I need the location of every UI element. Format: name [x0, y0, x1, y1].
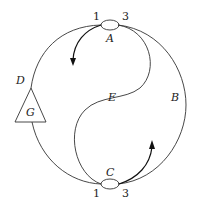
branch-e — [74, 25, 150, 184]
branch-d-upper — [31, 25, 101, 88]
arrow-head-up-icon — [149, 140, 155, 149]
node-c-port-3: 3 — [122, 187, 129, 200]
node-c — [101, 179, 119, 189]
element-g-label: G — [26, 106, 35, 119]
branch-d-lower — [32, 122, 101, 184]
branch-e-label: E — [107, 91, 116, 104]
branch-b — [118, 25, 186, 184]
node-a-label: A — [105, 32, 114, 45]
arrow-from-a — [73, 25, 101, 60]
branch-d-label: D — [15, 74, 25, 87]
branch-b-label: B — [170, 91, 179, 104]
arrow-from-c — [119, 147, 152, 184]
arrow-head-down-icon — [70, 58, 76, 66]
node-a-port-3: 3 — [122, 10, 129, 23]
node-c-port-1: 1 — [93, 187, 100, 200]
node-c-label: C — [106, 166, 115, 179]
node-a — [101, 20, 119, 30]
circuit-diagram: 1 3 A C 1 3 D E B G — [0, 0, 200, 205]
node-a-port-1: 1 — [93, 10, 100, 23]
